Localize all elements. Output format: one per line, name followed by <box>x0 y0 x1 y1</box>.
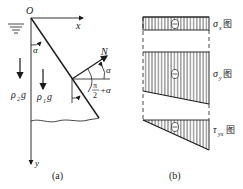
sigma-y-diagram <box>143 52 209 104</box>
sigma-y-label: σ y 图 <box>213 68 232 81</box>
x-axis-label: x <box>75 20 81 31</box>
svg-text:ρ: ρ <box>36 91 42 102</box>
y-axis-label: y <box>34 158 39 168</box>
svg-text:图: 图 <box>223 19 232 29</box>
svg-text:yx: yx <box>217 131 224 137</box>
normal-alpha-arc <box>102 66 105 79</box>
normal-vector-n <box>72 56 107 79</box>
angle-expression: π 2 +α <box>92 81 111 100</box>
caption-b: (b) <box>169 170 181 182</box>
svg-text:1: 1 <box>43 98 46 104</box>
origin-label: O <box>26 5 33 16</box>
svg-text:ρ: ρ <box>10 89 16 100</box>
tau-yx-label: τ yx 图 <box>213 124 235 137</box>
fluid-weight-label: ρ 2 g <box>10 89 26 102</box>
figure: O x y α N α π 2 +α ρ 2 g ρ 1 g (a) <box>0 0 243 189</box>
svg-text:y: y <box>218 75 222 81</box>
caption-a: (a) <box>52 170 63 182</box>
sigma-x-diagram <box>143 17 209 30</box>
svg-text:图: 图 <box>226 125 235 135</box>
normal-label: N <box>100 46 109 57</box>
svg-text:x: x <box>218 25 222 31</box>
svg-text:图: 图 <box>223 69 232 79</box>
water-surface-icon <box>8 24 24 33</box>
svg-text:2: 2 <box>17 96 20 102</box>
sigma-x-label: σ x 图 <box>213 18 232 31</box>
svg-text:2: 2 <box>93 91 97 100</box>
body-weight-label: ρ 1 g <box>36 91 52 104</box>
wavy-cut-line <box>31 118 99 122</box>
panel-a: O x y α N α π 2 +α ρ 2 g ρ 1 g (a) <box>8 5 111 182</box>
svg-text:π: π <box>93 81 97 90</box>
panel-b: σ x 图 σ y 图 τ yx 图 (b) <box>143 17 235 182</box>
svg-text:g: g <box>47 91 52 102</box>
small-arc-bottom <box>72 96 80 98</box>
svg-text:g: g <box>21 89 26 100</box>
tau-yx-diagram <box>143 120 209 150</box>
svg-text:τ: τ <box>213 124 217 135</box>
large-angle-arc <box>88 69 92 92</box>
svg-text:+α: +α <box>100 85 111 95</box>
alpha-label: α <box>33 45 38 55</box>
normal-alpha-label: α <box>106 65 111 75</box>
